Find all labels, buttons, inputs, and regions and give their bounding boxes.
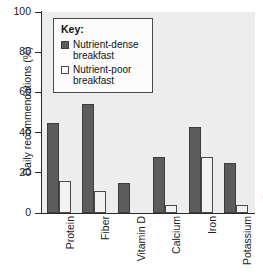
legend-label-poor-line1: Nutrient-poor: [73, 64, 131, 75]
legend-label-dense-line2: breakfast: [73, 50, 114, 61]
x-category-label: Fiber: [99, 216, 111, 240]
bar: [118, 183, 130, 213]
bar-chart: Daily recommendations (%) 020406080100 P…: [0, 0, 263, 274]
y-tick-label-60: 60: [0, 86, 31, 97]
bar: [224, 163, 236, 213]
legend-item-nutrient-dense: Nutrient-dense breakfast: [61, 39, 146, 61]
legend-swatch-dense-icon: [61, 41, 69, 49]
x-axis-line: [41, 213, 255, 214]
bar: [189, 127, 201, 213]
bar-group: [189, 12, 213, 213]
y-tick-label-80: 80: [0, 46, 31, 57]
credit-text: © Source: [262, 178, 263, 199]
legend-label-poor: Nutrient-poor breakfast: [73, 64, 131, 86]
y-tick-label-20: 20: [0, 167, 31, 178]
bar: [82, 104, 94, 213]
bar: [47, 123, 59, 213]
y-tick-label-0: 0: [0, 207, 31, 218]
chart-legend: Key: Nutrient-dense breakfast Nutrient-p…: [53, 18, 153, 93]
x-category-label: Protein: [64, 216, 76, 249]
x-category-label: Potassium: [241, 216, 253, 265]
y-tick-20: [35, 172, 42, 173]
legend-label-poor-line2: breakfast: [73, 75, 114, 86]
y-tick-80: [35, 52, 42, 53]
y-tick-label-40: 40: [0, 127, 31, 138]
y-tick-40: [35, 132, 42, 133]
bar-group: [153, 12, 177, 213]
bar-group: [224, 12, 248, 213]
legend-item-nutrient-poor: Nutrient-poor breakfast: [61, 64, 146, 86]
bar: [236, 205, 248, 213]
x-axis-category-labels: ProteinFiberVitamin DCalciumIronPotassiu…: [42, 216, 255, 274]
bar: [59, 181, 71, 213]
legend-label-dense: Nutrient-dense breakfast: [73, 39, 139, 61]
bar: [201, 157, 213, 213]
legend-label-dense-line1: Nutrient-dense: [73, 39, 139, 50]
x-category-label: Iron: [206, 216, 218, 234]
y-tick-60: [35, 92, 42, 93]
legend-title: Key:: [61, 24, 146, 36]
y-tick-label-100: 100: [0, 6, 31, 17]
bar: [165, 205, 177, 213]
x-category-label: Vitamin D: [135, 216, 147, 261]
legend-swatch-poor-icon: [61, 66, 69, 74]
y-tick-0: [35, 213, 42, 214]
bar: [94, 191, 106, 213]
x-category-label: Calcium: [170, 216, 182, 254]
y-tick-100: [35, 12, 42, 13]
bar: [153, 157, 165, 213]
